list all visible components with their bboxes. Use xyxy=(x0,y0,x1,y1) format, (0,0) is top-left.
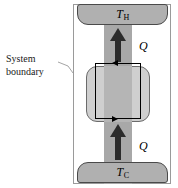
hot-reservoir-label: TH xyxy=(116,8,128,20)
caption-line-1: System xyxy=(6,52,68,65)
hot-reservoir: TH xyxy=(77,4,168,25)
hot-reservoir-subscript: H xyxy=(123,13,129,22)
boundary-crossing-arrow-bottom-icon xyxy=(112,116,118,122)
system-boundary-rectangle xyxy=(95,63,141,119)
boundary-crossing-arrow-top-icon xyxy=(112,60,118,66)
arrow-shaft xyxy=(115,136,121,160)
heat-label-upper: Q xyxy=(139,40,148,52)
heat-label-lower: Q xyxy=(139,140,148,152)
heat-transfer-figure: TH TC Q Q System boundary xyxy=(0,0,178,188)
system-boundary-caption: System boundary xyxy=(6,52,68,78)
heat-flow-arrow-lower xyxy=(110,124,126,160)
caption-line-2: boundary xyxy=(6,65,68,78)
cold-reservoir-label: TC xyxy=(116,166,128,178)
cold-reservoir: TC xyxy=(77,162,168,183)
cold-reservoir-subscript: C xyxy=(124,171,129,180)
heat-flow-arrow-upper xyxy=(110,28,126,62)
